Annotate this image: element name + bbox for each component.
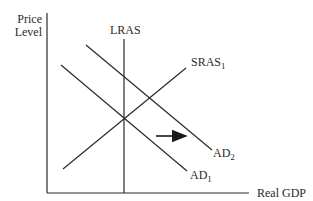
ad1-label: AD1: [190, 169, 212, 183]
ad2-label-text: AD: [213, 146, 230, 160]
sras-label-sub: 1: [221, 61, 226, 71]
y-axis-label-line2: Level: [6, 26, 42, 39]
ad1-label-text: AD: [190, 168, 207, 182]
x-axis-label: Real GDP: [257, 187, 306, 200]
ad1-label-sub: 1: [207, 174, 212, 184]
y-axis-label: Price Level: [6, 13, 42, 39]
ad2-label-sub: 2: [230, 152, 235, 162]
ad-as-diagram: [0, 0, 313, 201]
sras-label-text: SRAS: [191, 55, 221, 69]
ad2-label: AD2: [213, 147, 235, 161]
sras-label: SRAS1: [191, 56, 226, 70]
lras-label: LRAS: [110, 24, 141, 37]
lras-label-text: LRAS: [110, 23, 141, 37]
